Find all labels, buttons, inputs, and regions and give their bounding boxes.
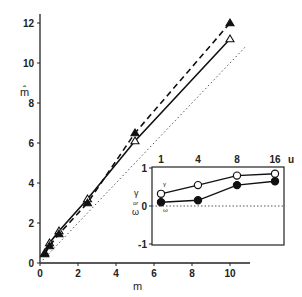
inset-x-axis-label: u — [288, 154, 294, 165]
y-tick-label: 8 — [28, 98, 34, 109]
open-circle-marker — [194, 182, 201, 189]
open-triangle-marker — [226, 35, 234, 42]
inset-y-label-or: or — [133, 200, 138, 206]
inset-x-tick-label: 4 — [195, 154, 201, 165]
y-tick-label: 4 — [28, 178, 34, 189]
inset-series-label-gamma: γ — [163, 181, 166, 187]
x-axis-label: m — [133, 280, 142, 292]
y-ticks: 024681012 — [23, 18, 40, 269]
inset-y-label-gamma: γ — [134, 188, 139, 198]
inset-y-tick-label: 0 — [141, 201, 147, 212]
inset-y-tick-label: -1 — [138, 239, 147, 250]
y-tick-label: 10 — [23, 58, 35, 69]
filled-triangle-marker — [226, 19, 234, 26]
x-ticks: 0246810 — [37, 263, 236, 279]
open-circle-marker — [157, 190, 164, 197]
filled-circle-marker — [157, 199, 164, 206]
x-tick-label: 8 — [189, 268, 195, 279]
x-tick-label: 0 — [37, 268, 43, 279]
inset-x-tick-label: 8 — [234, 154, 240, 165]
x-tick-label: 6 — [151, 268, 157, 279]
filled-circle-marker — [271, 178, 278, 185]
y-axis-label: m̂ — [20, 85, 29, 98]
filled-circle-marker — [233, 182, 240, 189]
inset-series-label-omega: ω — [163, 207, 168, 213]
chart-figure: 024681012 0246810 m̂ m 1481610-1 u γ or … — [0, 0, 302, 297]
inset-y-tick-label: 1 — [141, 163, 147, 174]
inset-x-tick-label: 16 — [269, 154, 281, 165]
y-tick-label: 6 — [28, 138, 34, 149]
inset-x-tick-label: 1 — [158, 154, 164, 165]
inset-y-label-omega: ω — [132, 207, 139, 217]
x-tick-label: 10 — [224, 268, 236, 279]
filled-circle-marker — [194, 197, 201, 204]
y-tick-label: 2 — [28, 218, 34, 229]
open-circle-marker — [233, 172, 240, 179]
x-tick-label: 2 — [75, 268, 81, 279]
open-circle-marker — [271, 170, 278, 177]
y-tick-label: 0 — [28, 258, 34, 269]
x-tick-label: 4 — [113, 268, 119, 279]
y-tick-label: 12 — [23, 18, 35, 29]
inset-chart: 1481610-1 u γ or ω γ ω — [132, 154, 294, 250]
